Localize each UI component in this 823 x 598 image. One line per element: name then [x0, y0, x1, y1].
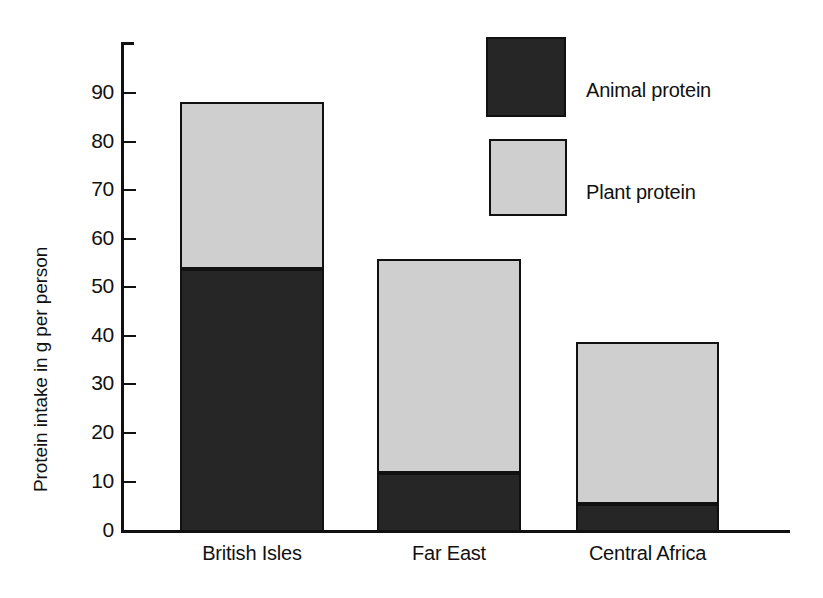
- y-tick-20: 20: [0, 432, 136, 434]
- legend-label-animal-protein: Animal protein: [586, 78, 711, 102]
- y-tick-label-0: 0: [14, 519, 114, 540]
- x-label-far-east: Far East: [377, 541, 521, 565]
- legend-label-plant-protein: Plant protein: [586, 180, 696, 204]
- y-tick-label-60: 60: [14, 227, 114, 248]
- y-tick-label-40: 40: [14, 324, 114, 345]
- y-tick-80: 80: [0, 141, 136, 143]
- y-tick-60: 60: [0, 238, 136, 240]
- y-tick-30: 30: [0, 383, 136, 385]
- x-label-british-isles: British Isles: [180, 541, 324, 565]
- y-tick-label-80: 80: [14, 130, 114, 151]
- y-tick-label-10: 10: [14, 470, 114, 491]
- bar-segment-plant-protein-far-east[interactable]: [377, 259, 521, 472]
- legend-swatch-plant-protein: [489, 139, 567, 216]
- y-tick-label-20: 20: [14, 421, 114, 442]
- y-tick-0: 0: [0, 530, 136, 532]
- bar-segment-animal-protein-central-africa[interactable]: [576, 504, 719, 532]
- bar-british-isles[interactable]: [180, 42, 324, 532]
- bar-segment-plant-protein-british-isles[interactable]: [180, 102, 324, 269]
- y-tick-10: 10: [0, 481, 136, 483]
- y-tick-label-70: 70: [14, 178, 114, 199]
- bar-segment-animal-protein-british-isles[interactable]: [180, 269, 324, 532]
- bar-segment-animal-protein-far-east[interactable]: [377, 473, 521, 532]
- y-tick-label-30: 30: [14, 372, 114, 393]
- y-tick-40: 40: [0, 335, 136, 337]
- y-tick-50: 50: [0, 286, 136, 288]
- y-tick-90: 90: [0, 92, 136, 94]
- legend-swatch-animal-protein: [486, 37, 566, 117]
- y-axis-top-cap: [121, 42, 134, 45]
- bar-central-africa[interactable]: [576, 42, 719, 532]
- bar-segment-plant-protein-central-africa[interactable]: [576, 342, 719, 504]
- stacked-bar-chart: Protein intake in g per person 90 80 70 …: [0, 0, 823, 598]
- y-tick-70: 70: [0, 189, 136, 191]
- x-label-central-africa: Central Africa: [576, 541, 719, 565]
- y-tick-label-90: 90: [14, 81, 114, 102]
- y-tick-label-50: 50: [14, 275, 114, 296]
